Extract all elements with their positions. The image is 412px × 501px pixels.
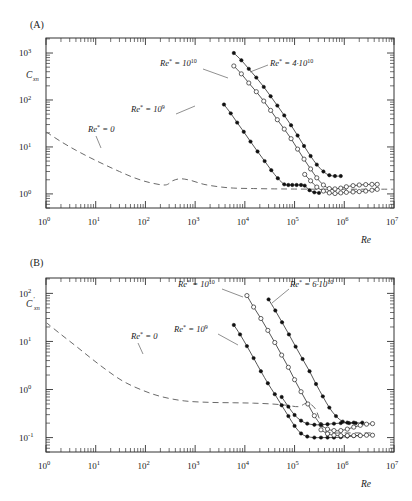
filled-circle-marker [306, 422, 309, 425]
panel-a-ylabel-sub: xn [32, 76, 39, 82]
ann-b2-base: Re [177, 279, 187, 289]
filled-circle-marker [293, 424, 296, 427]
filled-circle-marker [308, 370, 311, 373]
open-circle-marker [273, 340, 277, 344]
ann-b0-base: Re [130, 331, 140, 341]
panel-a-annotation-re1e9: Re* = 109 [130, 104, 195, 114]
filled-circle-marker [287, 414, 290, 417]
ann-a1-base: Re [130, 104, 140, 114]
open-circle-marker [262, 99, 266, 103]
open-circle-marker [333, 191, 337, 195]
y-tick-label: 101 [19, 141, 31, 153]
panel-b: (B) C ′ xn 100101102103104105106107 10-1… [19, 257, 399, 489]
ann-a1-exp: 9 [162, 104, 165, 110]
scientific-figure: (A) C xn 100101102103104105106107 100101… [0, 0, 412, 501]
solid-curve [234, 66, 377, 189]
data-series [46, 132, 394, 189]
filled-circle-marker [238, 333, 241, 336]
data-series [232, 51, 342, 177]
filled-circle-marker [315, 163, 318, 166]
filled-circle-marker [249, 140, 252, 143]
open-circle-marker [370, 182, 374, 186]
open-circle-marker [352, 433, 356, 437]
open-circle-marker [339, 186, 343, 190]
filled-circle-marker [326, 436, 329, 439]
filled-circle-marker [313, 423, 316, 426]
x-tick-label: 103 [187, 459, 199, 471]
filled-circle-marker [319, 423, 322, 426]
data-series [46, 322, 374, 433]
filled-circle-marker [247, 67, 250, 70]
panel-b-x-tick-labels: 100101102103104105106107 [38, 459, 399, 471]
filled-circle-marker [287, 405, 290, 408]
filled-circle-marker [333, 174, 336, 177]
dashed-curve [46, 132, 394, 189]
y-tick-label: 102 [19, 94, 31, 106]
open-circle-marker [375, 187, 379, 191]
panel-a-ylabel-base: C [26, 70, 33, 80]
open-circle-marker [232, 64, 236, 68]
open-circle-marker [351, 184, 355, 188]
open-circle-marker [312, 414, 316, 418]
x-tick-label: 102 [137, 215, 149, 227]
open-circle-marker [254, 90, 258, 94]
open-circle-marker [339, 191, 343, 195]
panel-b-ylabel: C ′ xn [26, 295, 40, 311]
panel-a-annotation-re4e10: Re* = 4·1010 [250, 58, 313, 72]
dashed-curve [46, 322, 374, 433]
filled-circle-marker [361, 421, 364, 424]
open-circle-marker [370, 433, 374, 437]
ann-b1-exp: 9 [205, 324, 208, 330]
plot-frame [46, 38, 394, 208]
filled-circle-marker [313, 436, 316, 439]
ann-a0-eq: = 0 [100, 124, 115, 134]
filled-circle-marker [291, 183, 294, 186]
open-circle-marker [239, 72, 243, 76]
panel-b-y-tick-labels: 10-1100101102 [19, 287, 33, 443]
open-circle-marker [344, 190, 348, 194]
open-circle-marker [321, 183, 325, 187]
ann-b3-eq: = 6·10 [302, 279, 328, 289]
open-circle-marker [303, 172, 307, 176]
x-tick-label: 104 [237, 215, 250, 227]
ann-a2-eq: = 10 [172, 58, 191, 68]
filled-circle-marker [332, 422, 335, 425]
panel-b-ylabel-base: C [26, 299, 33, 309]
filled-circle-marker [299, 419, 302, 422]
filled-circle-marker [273, 392, 276, 395]
y-tick-label: 100 [19, 383, 31, 395]
open-circle-marker [321, 189, 325, 193]
filled-circle-marker [302, 144, 305, 147]
filled-circle-marker [314, 382, 317, 385]
filled-circle-marker [283, 114, 286, 117]
open-circle-marker [286, 365, 290, 369]
svg-text:Re* = 6·1010: Re* = 6·1010 [289, 279, 333, 289]
open-circle-marker [252, 305, 256, 309]
data-series [232, 64, 380, 191]
svg-text:Re* = 109: Re* = 109 [130, 104, 165, 114]
y-tick-label: 103 [19, 47, 31, 59]
filled-circle-marker [352, 421, 355, 424]
filled-circle-marker [296, 134, 299, 137]
filled-circle-marker [229, 112, 232, 115]
y-tick-label: 101 [19, 335, 31, 347]
filled-circle-marker [232, 323, 235, 326]
open-circle-marker [292, 378, 296, 382]
x-tick-label: 107 [386, 459, 399, 471]
filled-circle-marker [295, 183, 298, 186]
filled-circle-marker [289, 124, 292, 127]
open-circle-marker [339, 428, 343, 432]
open-circle-marker [315, 185, 319, 189]
filled-circle-marker [334, 414, 337, 417]
panel-a-xlabel: Re [360, 235, 371, 245]
open-circle-marker [319, 428, 323, 432]
filled-circle-marker [276, 177, 279, 180]
open-circle-marker [364, 433, 368, 437]
solid-curve [247, 296, 373, 431]
open-circle-marker [345, 427, 349, 431]
filled-circle-marker [276, 104, 279, 107]
filled-circle-marker [313, 191, 316, 194]
open-circle-marker [327, 186, 331, 190]
filled-circle-marker [232, 51, 235, 54]
panel-b-axes [46, 278, 394, 452]
